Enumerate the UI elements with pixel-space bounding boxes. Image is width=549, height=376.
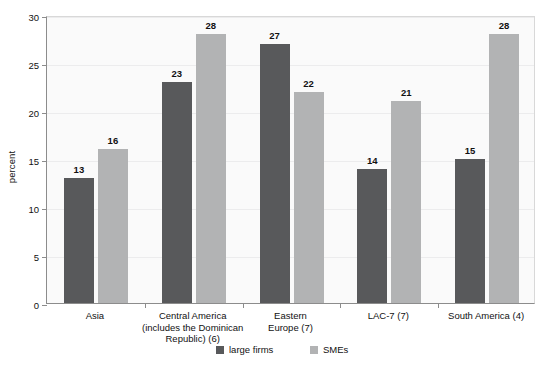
bar-value-label: 21 <box>401 87 412 98</box>
bar: 13 <box>64 178 94 303</box>
bar-value-label: 22 <box>303 78 314 89</box>
plot-area: 051015202530 13162328272214211528 <box>46 16 535 304</box>
legend-label: large firms <box>229 344 273 355</box>
bar-chart: percent 051015202530 1316232827221421152… <box>0 0 549 376</box>
x-axis-tick <box>145 303 146 308</box>
bar: 23 <box>162 82 192 303</box>
x-axis-tick <box>438 303 439 308</box>
bar: 14 <box>357 169 387 303</box>
y-axis-tick-label: 10 <box>28 204 39 215</box>
bar: 28 <box>489 34 519 303</box>
bar: 21 <box>391 101 421 303</box>
y-axis-tick-label: 20 <box>28 108 39 119</box>
legend-item[interactable]: large firms <box>216 344 273 355</box>
bar: 22 <box>294 92 324 303</box>
x-axis-tick <box>243 303 244 308</box>
y-axis-tick-label: 25 <box>28 60 39 71</box>
y-axis-title: percent <box>6 62 17 132</box>
y-axis-tick-label: 0 <box>34 300 39 311</box>
x-axis-category-label: South America (4) <box>422 310 549 322</box>
y-axis-tick-label: 30 <box>28 12 39 23</box>
bar-value-label: 16 <box>108 135 119 146</box>
bar-value-label: 28 <box>205 20 216 31</box>
legend-swatch-icon <box>310 346 318 354</box>
bar: 15 <box>455 159 485 303</box>
legend-label: SMEs <box>323 344 348 355</box>
y-axis-tick-label: 15 <box>28 156 39 167</box>
legend-item[interactable]: SMEs <box>310 344 348 355</box>
bar-value-label: 27 <box>269 30 280 41</box>
bar: 28 <box>196 34 226 303</box>
y-axis-tick-label: 5 <box>34 252 39 263</box>
y-axis-tick <box>42 305 47 306</box>
legend-swatch-icon <box>216 346 224 354</box>
bar: 27 <box>260 44 290 303</box>
chart-legend: large firmsSMEs <box>0 344 549 360</box>
bar: 16 <box>98 149 128 303</box>
bars-layer: 13162328272214211528 <box>47 17 534 303</box>
bar-value-label: 28 <box>499 20 510 31</box>
bar-value-label: 14 <box>367 155 378 166</box>
bar-value-label: 23 <box>171 68 182 79</box>
x-axis-tick <box>340 303 341 308</box>
bar-value-label: 15 <box>465 145 476 156</box>
bar-value-label: 13 <box>74 164 85 175</box>
